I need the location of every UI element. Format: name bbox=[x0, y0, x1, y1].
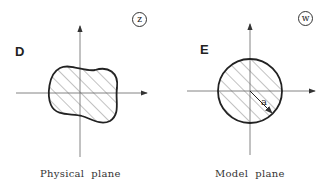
region-label-d: D bbox=[15, 44, 24, 59]
physical-plane-panel bbox=[16, 26, 147, 157]
conformal-mapping-diagram bbox=[0, 0, 326, 185]
region-label-e: E bbox=[200, 42, 209, 57]
physical-plane-caption: Physical plane bbox=[40, 168, 121, 179]
model-plane-caption: Model plane bbox=[215, 168, 285, 179]
plane-badge-w: w bbox=[298, 11, 313, 26]
physical-domain-blob bbox=[49, 66, 117, 122]
plane-badge-z: z bbox=[132, 12, 147, 27]
radius-label-a: a bbox=[261, 96, 267, 107]
